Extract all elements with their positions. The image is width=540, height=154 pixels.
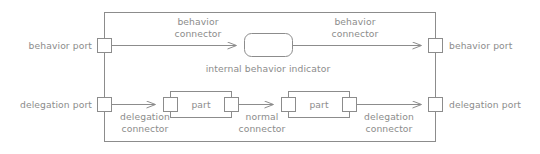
behavior-connector-right-label-line2: connector: [332, 28, 379, 40]
part-left-label: part: [191, 99, 210, 111]
internal-behavior-indicator-label: internal behavior indicator: [206, 63, 331, 75]
internal-behavior-indicator[interactable]: [245, 34, 293, 57]
diagram-canvas: behavior port behavior port delegation p…: [0, 0, 540, 154]
part-left-port-out-square[interactable]: [225, 98, 239, 112]
part-right-label: part: [309, 99, 328, 111]
behavior-connector-left-label-line1: behavior: [175, 16, 222, 28]
delegation-port-right-label: delegation port: [449, 99, 521, 111]
behavior-port-left-square[interactable]: [98, 39, 112, 53]
behavior-connector-left-label: behavior connector: [175, 16, 222, 40]
behavior-connector-right-label-line1: behavior: [332, 16, 379, 28]
behavior-port-right-square[interactable]: [429, 39, 443, 53]
delegation-connector-left-label-line1: delegation: [120, 111, 170, 123]
behavior-port-left-label: behavior port: [29, 40, 92, 52]
delegation-port-left-square[interactable]: [98, 98, 112, 112]
delegation-connector-right-label-line1: delegation: [364, 111, 414, 123]
delegation-connector-left-label-line2: connector: [120, 123, 170, 135]
behavior-connector-left-label-line2: connector: [175, 28, 222, 40]
delegation-connector-left-label: delegation connector: [120, 111, 170, 135]
delegation-port-right-square[interactable]: [429, 98, 443, 112]
normal-connector-label: normal connector: [239, 111, 286, 135]
part-right-port-in-square[interactable]: [282, 98, 296, 112]
delegation-connector-right-label: delegation connector: [364, 111, 414, 135]
delegation-port-left-label: delegation port: [20, 99, 92, 111]
part-left-port-in-square[interactable]: [164, 98, 178, 112]
behavior-connector-right-label: behavior connector: [332, 16, 379, 40]
normal-connector-label-line2: connector: [239, 123, 286, 135]
part-right-port-out-square[interactable]: [343, 98, 357, 112]
normal-connector-label-line1: normal: [239, 111, 286, 123]
behavior-port-right-label: behavior port: [449, 40, 512, 52]
delegation-connector-right-label-line2: connector: [364, 123, 414, 135]
